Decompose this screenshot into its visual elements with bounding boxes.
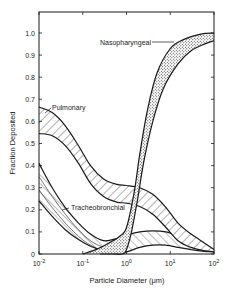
nasopharyngeal-label: Nasopharyngeal bbox=[100, 39, 151, 47]
tracheobronchial-label: Tracheobronchial bbox=[71, 204, 125, 211]
y-axis: 00.10.20.30.40.50.60.70.80.91.0 bbox=[25, 30, 214, 258]
y-tick-label: 0.5 bbox=[25, 140, 35, 147]
y-tick-label: 0.1 bbox=[25, 228, 35, 235]
y-axis-title: Fraction Deposited bbox=[8, 112, 17, 175]
bands-layer bbox=[39, 33, 214, 254]
y-tick-label: 0.6 bbox=[25, 118, 35, 125]
y-tick-label: 0.4 bbox=[25, 162, 35, 169]
pulmonary-label: Pulmonary bbox=[52, 104, 86, 112]
x-tick-label: 101 bbox=[165, 258, 176, 267]
y-tick-label: 0.3 bbox=[25, 184, 35, 191]
nasopharyngeal-upper-curve bbox=[83, 33, 214, 254]
deposition-chart: 00.10.20.30.40.50.60.70.80.91.0 10-210-1… bbox=[0, 0, 227, 292]
y-tick-label: 0.7 bbox=[25, 96, 35, 103]
x-tick-label: 10-2 bbox=[33, 258, 46, 267]
x-axis-title: Particle Diameter (μm) bbox=[89, 276, 165, 285]
nasopharyngeal-fill bbox=[83, 33, 214, 254]
y-tick-label: 1.0 bbox=[25, 30, 35, 37]
y-tick-label: 0.8 bbox=[25, 74, 35, 81]
y-tick-label: 0.2 bbox=[25, 206, 35, 213]
x-tick-label: 10-1 bbox=[76, 258, 89, 267]
y-tick-label: 0 bbox=[31, 251, 35, 258]
x-tick-label: 102 bbox=[209, 258, 220, 267]
x-tick-label: 100 bbox=[121, 258, 132, 267]
y-tick-label: 0.9 bbox=[25, 52, 35, 59]
nasopharyngeal-band bbox=[83, 33, 214, 254]
